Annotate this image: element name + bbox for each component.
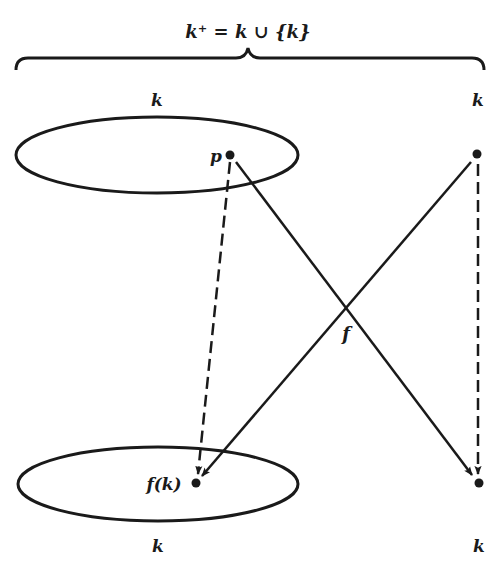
- top-set-ellipse: [16, 117, 298, 193]
- point-p: [226, 151, 235, 160]
- edge-p-to-k-bottom: [236, 162, 472, 475]
- edge-p-to-fk-dashed: [198, 162, 230, 474]
- edge-k-top-to-fk: [202, 162, 471, 476]
- top-left-set-label: k: [151, 90, 163, 110]
- diagram-canvas: k⁺ = k ∪ {k} k k p f(k) f k k: [0, 0, 502, 569]
- top-right-label: k: [472, 90, 484, 110]
- bottom-right-label: k: [473, 536, 485, 556]
- point-k-bottom: [475, 479, 484, 488]
- point-p-label: p: [210, 146, 222, 166]
- point-fk-label: f(k): [145, 474, 181, 494]
- function-label: f: [340, 323, 353, 344]
- point-k-top: [473, 150, 482, 159]
- brace: [16, 48, 484, 70]
- point-fk: [192, 479, 201, 488]
- bottom-left-set-label: k: [152, 536, 164, 556]
- brace-label: k⁺ = k ∪ {k}: [185, 21, 310, 42]
